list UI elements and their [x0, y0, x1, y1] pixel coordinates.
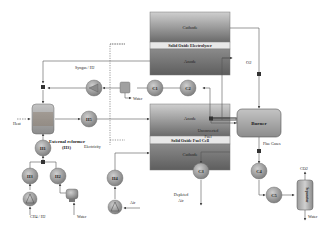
heat-exchanger-h1: H1 — [35, 140, 51, 156]
separator-water-label: Water — [308, 214, 318, 219]
svg-text:Fuel: Fuel — [204, 134, 212, 139]
svg-text:H3: H3 — [27, 174, 34, 179]
soe-cathode-label: Cathode — [183, 25, 198, 30]
soe-anode-label: Anode — [184, 59, 196, 64]
sofc-cathode-label: Cathode — [183, 152, 198, 157]
svg-text:H1: H1 — [40, 146, 47, 151]
valve-icon — [41, 85, 45, 89]
valve-icon — [257, 72, 261, 76]
solid-oxide-electrolyzer: Cathode Solid Oxide Electrolyzer Anode — [150, 12, 230, 75]
recycle-blower-icon — [86, 80, 102, 96]
ch4-h2-label: CH4 / H2 — [30, 214, 46, 219]
valve-icon — [257, 149, 261, 153]
svg-text:Air: Air — [178, 198, 184, 203]
component-c1: C1 — [147, 80, 163, 96]
heat-exchanger-h2: H2 — [50, 168, 66, 184]
water-out-label: Water — [133, 96, 143, 101]
heat-exchanger-h4: H4 — [107, 170, 123, 186]
component-c2: C2 — [180, 80, 196, 96]
co2-label: CO2 — [300, 166, 308, 171]
electricity-label: Electricity — [84, 144, 101, 149]
svg-text:H4: H4 — [112, 176, 119, 181]
fuel-compressor-icon — [23, 192, 37, 206]
svg-text:Burner: Burner — [251, 121, 267, 126]
component-c5: C5 — [266, 187, 282, 203]
reformer-label: External reformer — [49, 139, 85, 144]
unconverted-fuel-label: Unconverted — [198, 128, 219, 133]
valve-icon — [41, 160, 45, 164]
component-c3: C3 — [193, 163, 209, 179]
depleted-air-label: Depleted — [174, 192, 188, 197]
svg-text:C5: C5 — [271, 193, 277, 198]
svg-text:C4: C4 — [256, 169, 262, 174]
process-flow-diagram: Cathode Solid Oxide Electrolyzer Anode A… — [0, 0, 334, 236]
water-in-label: Water — [77, 214, 87, 219]
air-label: Air — [130, 200, 136, 205]
svg-text:C1: C1 — [152, 86, 158, 91]
solid-oxide-fuel-cell: Anode Solid Oxide Fuel Cell Cathode — [150, 104, 230, 170]
water-pump-icon — [66, 189, 78, 202]
reformer-sub-label: (H3) — [62, 145, 71, 150]
soe-electrolyte-label: Solid Oxide Electrolyzer — [168, 43, 212, 48]
heat-exchanger-h5: H5 — [81, 111, 97, 127]
separator: Separator — [297, 180, 313, 210]
heat-label: Heat — [13, 121, 21, 126]
svg-text:C3: C3 — [198, 169, 204, 174]
flue-gases-label: Flue Gases — [263, 141, 281, 146]
svg-text:C2: C2 — [185, 86, 191, 91]
syngas-label: Syngas / H2 — [75, 65, 95, 70]
burner: Burner — [237, 109, 281, 137]
sofc-anode-label: Anode — [184, 116, 196, 121]
heat-exchanger-h3: H3 — [22, 168, 38, 184]
valve-icon — [209, 117, 213, 121]
svg-text:H5: H5 — [86, 117, 93, 122]
svg-text:Separator: Separator — [305, 187, 309, 203]
svg-text:H2: H2 — [55, 174, 62, 179]
water-knockout-tank — [120, 82, 130, 93]
air-compressor-icon — [108, 200, 122, 214]
component-c4: C4 — [251, 163, 267, 179]
o2-label: O2 — [246, 60, 252, 65]
